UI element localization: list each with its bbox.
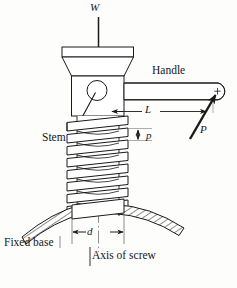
handle-hole [87,81,107,101]
cap-taper [62,57,134,76]
cap-top-plate [62,47,134,57]
lever-arm-dimension [112,100,213,113]
force-label: P [200,124,207,135]
stem-label: Stem [42,132,66,144]
diameter-label: d [87,226,93,237]
axis-label: Axis of screw [92,250,156,262]
handle-rod [124,83,225,100]
handle-label: Handle [152,65,185,77]
fixed-base-label: Fixed base [4,237,54,249]
pitch-label: p [146,130,152,141]
load-label: W [90,2,99,13]
lever-arm-label: L [145,104,151,115]
screw-jack-figure: W Handle L P Stem p d Fixed base Axis of… [0,0,237,288]
